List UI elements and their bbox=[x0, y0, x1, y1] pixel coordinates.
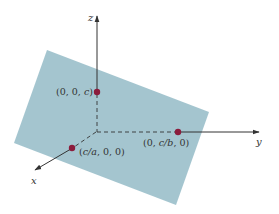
z-intercept-point bbox=[94, 89, 100, 95]
diagram-canvas: z y x (0, 0, c) (0, c/b, 0) (c/a, 0, 0) bbox=[0, 0, 279, 214]
z-axis-label: z bbox=[87, 12, 94, 23]
x-intercept-label: (c/a, 0, 0) bbox=[79, 146, 125, 157]
x-intercept-point bbox=[69, 145, 75, 151]
y-intercept-point bbox=[175, 129, 181, 135]
plane-surface bbox=[14, 50, 209, 205]
z-intercept-label: (0, 0, c) bbox=[56, 86, 93, 97]
y-axis-label: y bbox=[255, 136, 262, 147]
y-intercept-label: (0, c/b, 0) bbox=[143, 137, 189, 148]
x-axis-label: x bbox=[31, 175, 37, 186]
plane-intercepts-figure: z y x (0, 0, c) (0, c/b, 0) (c/a, 0, 0) bbox=[0, 0, 279, 214]
